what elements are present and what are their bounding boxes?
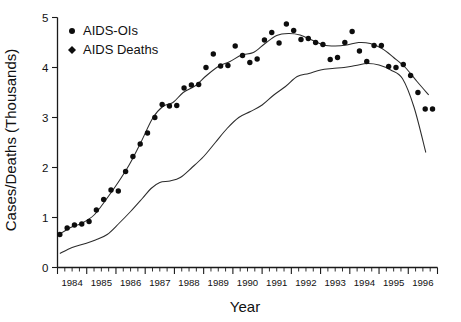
data-point	[130, 154, 135, 159]
data-point	[138, 141, 143, 146]
data-point	[233, 43, 238, 48]
data-point	[371, 43, 376, 48]
y-tick-label-2: 2	[42, 162, 48, 174]
legend-marker-circle	[69, 28, 75, 34]
data-point	[254, 56, 259, 61]
data-point	[64, 225, 69, 230]
data-point	[101, 197, 106, 202]
x-tick-label-1986: 1986	[120, 277, 141, 288]
legend-label-1: AIDS Deaths	[83, 42, 159, 57]
x-tick-label-1992: 1992	[295, 277, 316, 288]
data-point	[94, 207, 99, 212]
data-point	[298, 37, 303, 42]
data-point	[401, 62, 406, 67]
x-tick-label-1989: 1989	[208, 277, 229, 288]
data-point	[79, 221, 84, 226]
data-point	[276, 40, 281, 45]
data-point	[269, 30, 274, 35]
data-point	[357, 48, 362, 53]
x-tick-label-1996: 1996	[412, 277, 433, 288]
data-point	[189, 82, 194, 87]
data-point	[225, 63, 230, 68]
data-point	[159, 102, 164, 107]
data-point	[364, 59, 369, 64]
trend-lines-layer	[60, 33, 429, 253]
x-tick-label-1987: 1987	[149, 277, 170, 288]
x-axis-group: 1984198519861987198819891990199119921993…	[58, 268, 438, 288]
x-tick-label-1994: 1994	[354, 277, 376, 288]
data-point	[386, 64, 391, 69]
data-point	[152, 115, 157, 120]
data-point	[86, 219, 91, 224]
data-point	[393, 65, 398, 70]
data-point	[240, 53, 245, 58]
data-point	[306, 36, 311, 41]
x-axis-tick-labels: 1984198519861987198819891990199119921993…	[61, 277, 433, 288]
data-point	[342, 40, 347, 45]
data-point	[291, 28, 296, 33]
x-tick-label-1984: 1984	[61, 277, 83, 288]
data-point	[379, 43, 384, 48]
data-point	[430, 106, 435, 111]
data-point	[408, 73, 413, 78]
data-points-layer	[57, 1, 435, 251]
data-point	[145, 130, 150, 135]
data-point	[218, 63, 223, 68]
data-point	[247, 60, 252, 65]
data-point	[72, 222, 77, 227]
data-point	[423, 106, 428, 111]
y-axis-group: 012345	[42, 12, 57, 274]
x-axis-title: Year	[230, 298, 260, 315]
y-tick-label-4: 4	[42, 62, 49, 74]
data-point	[174, 103, 179, 108]
data-point	[320, 42, 325, 47]
x-tick-label-1988: 1988	[178, 277, 199, 288]
y-tick-label-5: 5	[42, 12, 48, 24]
series-aids-deaths	[60, 1, 433, 251]
data-point	[211, 51, 216, 56]
aids-chart-figure: 012345 198419851986198719881989199019911…	[0, 0, 461, 322]
AIDS-Deaths-trend	[60, 63, 426, 253]
data-point	[284, 21, 289, 26]
data-point	[167, 103, 172, 108]
data-point	[203, 65, 208, 70]
data-point	[116, 188, 121, 193]
data-point	[123, 169, 128, 174]
data-point	[415, 90, 420, 95]
legend-label-0: AIDS-OIs	[83, 23, 138, 38]
data-point	[335, 55, 340, 60]
y-axis-title: Cases/Deaths (Thousands)	[2, 49, 19, 232]
chart-legend: AIDS-OIsAIDS Deaths	[68, 23, 159, 57]
x-axis-ticks	[58, 268, 438, 275]
data-point	[108, 187, 113, 192]
y-tick-label-1: 1	[42, 212, 48, 224]
x-tick-label-1993: 1993	[325, 277, 346, 288]
data-point	[262, 37, 267, 42]
x-tick-label-1990: 1990	[237, 277, 258, 288]
data-point	[196, 82, 201, 87]
y-axis-ticks: 012345	[42, 12, 57, 274]
x-tick-label-1995: 1995	[383, 277, 404, 288]
data-point	[181, 85, 186, 90]
chart-canvas: 012345 198419851986198719881989199019911…	[0, 0, 461, 322]
y-tick-label-3: 3	[42, 112, 48, 124]
data-point	[57, 232, 62, 237]
x-tick-label-1985: 1985	[91, 277, 112, 288]
data-point	[328, 57, 333, 62]
x-tick-label-1991: 1991	[266, 277, 287, 288]
legend-marker-diamond	[68, 46, 76, 54]
data-point	[313, 40, 318, 45]
y-tick-label-0: 0	[42, 262, 48, 274]
data-point	[349, 29, 354, 34]
